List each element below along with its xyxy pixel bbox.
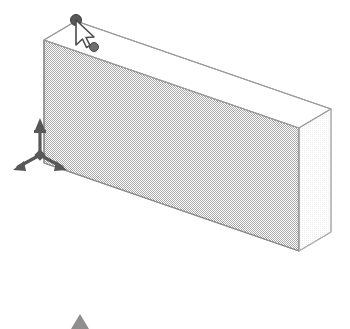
3d-model-viewport[interactable] [0,0,350,329]
model-face-right-end[interactable] [299,109,331,251]
axis-z-tick [34,130,46,133]
scene-canvas[interactable] [0,0,350,329]
bottom-triangle-marker[interactable] [71,314,89,329]
triangle-marker-icon[interactable] [71,314,89,329]
axis-x-arrow-icon [13,161,26,171]
secondary-grip-point[interactable] [90,43,99,52]
model-solid[interactable] [44,21,331,251]
